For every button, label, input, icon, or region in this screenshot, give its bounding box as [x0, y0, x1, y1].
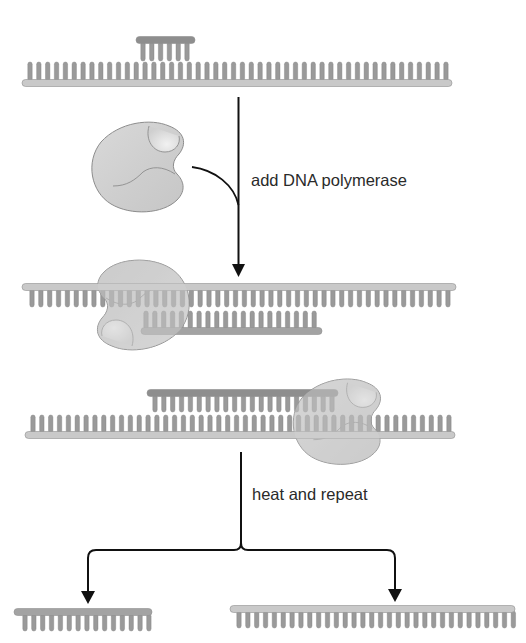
base-tooth — [352, 611, 356, 628]
dna-polymerase-bound-1-overlay — [97, 260, 189, 350]
base-tooth — [419, 289, 423, 307]
base-tooth — [171, 395, 175, 412]
base-tooth — [493, 611, 497, 628]
base-tooth — [272, 611, 276, 628]
base-tooth — [285, 311, 289, 329]
base-tooth — [364, 62, 368, 81]
base-tooth — [420, 415, 424, 433]
base-tooth — [411, 415, 415, 433]
base-tooth — [111, 614, 115, 631]
base-tooth — [259, 395, 263, 412]
base-tooth — [393, 289, 397, 307]
base-tooth — [37, 62, 41, 81]
base-tooth — [268, 311, 272, 329]
base-tooth — [429, 415, 433, 433]
base-tooth — [444, 62, 448, 81]
base-tooth — [74, 289, 78, 307]
base-tooth — [426, 62, 430, 81]
base-tooth — [110, 415, 114, 433]
base-tooth — [259, 311, 263, 329]
base-tooth — [141, 42, 145, 61]
base-tooth — [188, 395, 192, 412]
base-tooth — [23, 614, 27, 631]
base-tooth — [143, 62, 147, 81]
base-tooth — [99, 62, 103, 81]
dna-strand-bottom-right-product — [230, 606, 516, 629]
base-tooth — [138, 614, 142, 631]
base-tooth — [299, 611, 303, 628]
base-tooth — [199, 415, 203, 433]
base-tooth — [403, 415, 407, 433]
dna-polymerase-free — [92, 122, 184, 212]
base-tooth — [241, 395, 245, 412]
base-tooth — [260, 289, 264, 307]
base-tooth — [243, 415, 247, 433]
arrow-add-polymerase — [192, 97, 245, 277]
base-tooth — [125, 62, 129, 81]
base-tooth — [150, 42, 154, 61]
base-tooth — [355, 62, 359, 81]
base-tooth — [476, 611, 480, 628]
base-tooth — [250, 395, 254, 412]
base-tooth — [179, 395, 183, 412]
base-tooth — [208, 415, 212, 433]
base-tooth — [261, 415, 265, 433]
base-tooth — [361, 611, 365, 628]
base-tooth — [370, 611, 374, 628]
base-tooth — [376, 415, 380, 433]
base-tooth — [187, 62, 191, 81]
arrowhead-right — [388, 589, 402, 602]
dna-strand-top-template — [22, 62, 452, 87]
base-tooth — [224, 395, 228, 412]
base-tooth — [226, 415, 230, 433]
base-tooth — [158, 42, 162, 61]
base-tooth — [338, 62, 342, 81]
base-tooth — [294, 311, 298, 329]
base-tooth — [432, 611, 436, 628]
base-tooth — [161, 62, 165, 81]
base-tooth — [250, 311, 254, 329]
base-tooth — [276, 62, 280, 81]
base-tooth — [400, 62, 404, 81]
base-tooth — [169, 62, 173, 81]
base-tooth — [225, 289, 229, 307]
base-tooth — [48, 289, 52, 307]
base-tooth — [408, 62, 412, 81]
base-tooth — [214, 62, 218, 81]
base-tooth — [286, 289, 290, 307]
base-tooth — [93, 415, 97, 433]
base-tooth — [155, 415, 159, 433]
base-tooth — [348, 289, 352, 307]
base-tooth — [196, 62, 200, 81]
base-tooth — [281, 611, 285, 628]
base-tooth — [162, 395, 166, 412]
base-tooth — [102, 415, 106, 433]
base-tooth — [293, 62, 297, 81]
base-tooth — [119, 415, 123, 433]
base-tooth — [447, 415, 451, 433]
base-tooth — [242, 289, 246, 307]
base-tooth — [255, 611, 259, 628]
base-tooth — [152, 62, 156, 81]
base-tooth — [410, 289, 414, 307]
base-tooth — [435, 62, 439, 81]
base-tooth — [302, 62, 306, 81]
dna-strand-mid1-template — [22, 284, 456, 308]
base-tooth — [54, 62, 58, 81]
base-tooth — [81, 62, 85, 81]
base-tooth — [197, 311, 201, 329]
dna-strand-bottom-left-product — [14, 609, 152, 632]
base-tooth — [129, 614, 133, 631]
base-tooth — [312, 311, 316, 329]
base-tooth — [320, 62, 324, 81]
base-tooth — [290, 611, 294, 628]
base-tooth — [308, 611, 312, 628]
base-tooth — [240, 62, 244, 81]
base-tooth — [263, 611, 267, 628]
base-tooth — [190, 415, 194, 433]
base-tooth — [206, 311, 210, 329]
base-tooth — [233, 289, 237, 307]
base-tooth — [223, 311, 227, 329]
base-tooth — [458, 611, 462, 628]
base-tooth — [146, 415, 150, 433]
